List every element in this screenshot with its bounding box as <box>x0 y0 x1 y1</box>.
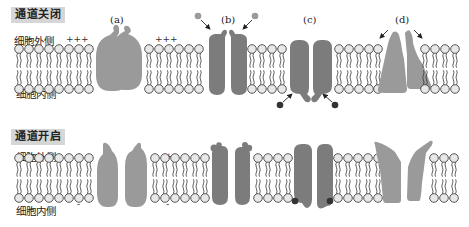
lipid-bilayer-segment-1 <box>15 45 94 94</box>
ligand-gated-channel-b-open <box>211 142 253 205</box>
open-membrane-diagram <box>0 115 469 227</box>
ligand-gated-channel-c-closed <box>290 40 332 102</box>
bound-intracellular-ligand-right <box>327 198 334 205</box>
ligand-gated-channel-b-closed <box>195 13 259 95</box>
closed-membrane-diagram <box>0 0 469 115</box>
ligand-arrow-right <box>243 20 252 29</box>
mechanical-arrow-left <box>380 30 388 38</box>
lipid-bilayer-segment-5-open <box>430 154 459 203</box>
intracellular-ligand-right <box>332 102 339 109</box>
lipid-bilayer-segment-4-open <box>334 154 383 203</box>
bound-intracellular-ligand-left <box>292 198 299 205</box>
lipid-bilayer-segment-1-open <box>15 154 94 203</box>
voltage-gated-channel-open <box>97 143 147 207</box>
lipid-bilayer-segment-5 <box>421 45 460 94</box>
ligand-arrow-c-right <box>323 94 332 102</box>
lipid-bilayer-segment-3 <box>248 45 287 94</box>
lipid-bilayer-segment-2-open <box>151 154 210 203</box>
panel-channel-closed: 通道关闭 细胞外侧 细胞内侧 +++ — +++ — (a) (b) (c) (… <box>0 0 469 115</box>
lipid-bilayer-segment-2 <box>145 45 204 94</box>
voltage-gated-channel-closed <box>96 25 142 91</box>
mechanically-gated-channel-open <box>374 141 432 203</box>
mechanical-arrow-right <box>414 30 422 38</box>
ligand-arrow-left <box>201 20 210 29</box>
lipid-bilayer-segment-4 <box>335 45 383 94</box>
intracellular-ligand-left <box>277 102 284 109</box>
ligand-gated-channel-c-open <box>294 144 333 208</box>
ligand-arrow-c-left <box>283 94 292 102</box>
panel-channel-open: 通道开启 细胞外侧 细胞内侧 + - + - <box>0 115 469 227</box>
lipid-bilayer-segment-3-open <box>254 154 293 203</box>
